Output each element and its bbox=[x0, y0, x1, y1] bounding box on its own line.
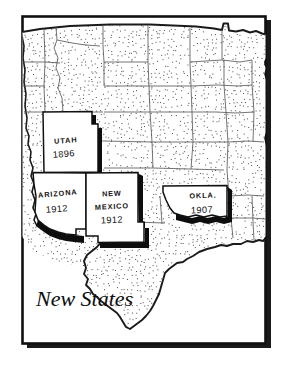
oklahoma-shape bbox=[163, 186, 227, 218]
map-canvas: UTAH 1896 ARIZONA 1912 NEW MEXICO 1912 O… bbox=[0, 0, 282, 374]
state-utah[interactable] bbox=[43, 112, 102, 177]
new-mexico-shape bbox=[86, 173, 144, 243]
state-new-mexico[interactable] bbox=[86, 173, 149, 249]
map-figure: UTAH 1896 ARIZONA 1912 NEW MEXICO 1912 O… bbox=[0, 0, 282, 374]
utah-shape bbox=[43, 112, 98, 173]
figure-caption: New States bbox=[35, 286, 133, 311]
